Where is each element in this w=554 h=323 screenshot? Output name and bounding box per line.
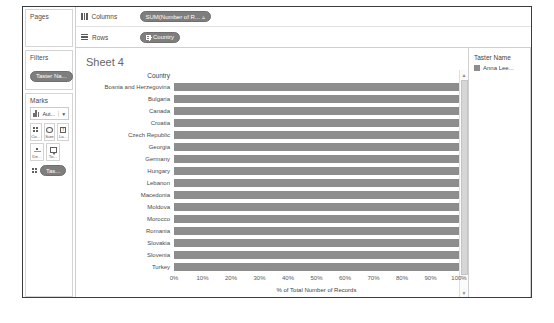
bar-mark[interactable] <box>174 215 459 224</box>
rows-shelf-label: Rows <box>92 34 128 41</box>
tooltip-icon <box>50 145 57 154</box>
mark-type-selector[interactable]: Aut... ▼ <box>30 107 69 120</box>
category-label: Slovenia <box>76 249 174 261</box>
columns-pill-sum-number-of-records[interactable]: SUM(Number of R... ▵ <box>140 11 211 22</box>
pages-card[interactable]: Pages <box>25 9 73 47</box>
shelves: Columns SUM(Number of R... ▵ Rows Countr… <box>76 7 531 48</box>
category-label: Slovakia <box>76 237 174 249</box>
bar-mark[interactable] <box>174 239 459 248</box>
bar-mark[interactable] <box>174 167 459 176</box>
marks-button-row-2: De... To... <box>30 143 69 161</box>
category-label: Turkey <box>76 261 174 273</box>
bar-row <box>174 129 459 141</box>
legend-item-label: Anna Lee... <box>483 65 514 71</box>
x-tick-label: 90% <box>424 275 436 281</box>
rows-pill-label: Country <box>153 34 174 40</box>
bar-row <box>174 213 459 225</box>
row-header-title: Country <box>76 70 174 81</box>
bar-mark[interactable] <box>174 119 459 128</box>
marks-detail-button[interactable]: De... <box>30 143 44 161</box>
bar-row <box>174 93 459 105</box>
bar-mark[interactable] <box>174 251 459 260</box>
viz-wrapper: Columns SUM(Number of R... ▵ Rows Countr… <box>76 7 531 297</box>
marks-tooltip-button[interactable]: To... <box>46 143 60 161</box>
mark-type-label: Aut... <box>42 111 55 117</box>
legend-swatch <box>474 65 480 71</box>
x-tick-label: 40% <box>282 275 294 281</box>
page-title: Sheet 4 <box>76 48 468 70</box>
marks-size-button[interactable]: Size <box>44 123 56 141</box>
marks-field-pill-label: Tas... <box>46 168 60 174</box>
bar-mark[interactable] <box>174 263 459 272</box>
category-label: Romania <box>76 225 174 237</box>
bar-mark[interactable] <box>174 179 459 188</box>
columns-shelf-label: Columns <box>92 13 128 20</box>
size-icon <box>46 125 53 134</box>
left-rail: Pages Filters Taster Na... Marks Aut... … <box>23 7 76 297</box>
marks-field-pill-taster[interactable]: Tas... <box>40 165 66 176</box>
chevron-down-icon[interactable]: ▼ <box>58 111 66 117</box>
category-label: Lebanon <box>76 177 174 189</box>
bar-mark[interactable] <box>174 191 459 200</box>
scrollbar-track[interactable] <box>460 79 469 288</box>
marks-color-label: Co... <box>31 134 40 140</box>
bar-row <box>174 141 459 153</box>
x-axis: 0%10%20%30%40%50%60%70%80%90%100% <box>76 273 459 286</box>
marks-label-label: La... <box>59 134 68 140</box>
x-tick-label: 80% <box>396 275 408 281</box>
category-label: Bosnia and Herzegovina <box>76 81 174 93</box>
bar-mark[interactable] <box>174 107 459 116</box>
category-label: Canada <box>76 105 174 117</box>
legend-item[interactable]: Anna Lee... <box>474 65 526 71</box>
marks-size-label: Size <box>45 134 54 140</box>
bar-mark[interactable] <box>174 131 459 140</box>
color-icon <box>33 125 38 134</box>
x-tick-label: 100% <box>451 275 466 281</box>
rows-pill-country[interactable]: Country <box>140 32 180 43</box>
marks-detail-label: De... <box>32 154 41 160</box>
bar-mark[interactable] <box>174 155 459 164</box>
x-tick-label: 50% <box>310 275 322 281</box>
filters-card[interactable]: Filters Taster Na... <box>25 50 73 90</box>
scroll-up-icon[interactable]: ▲ <box>460 70 469 79</box>
bar-row <box>174 261 459 273</box>
marks-color-button[interactable]: Co... <box>30 123 42 141</box>
viz-main: Sheet 4 Country Bosnia and HerzegovinaBu… <box>76 48 468 297</box>
x-tick-label: 0% <box>170 275 179 281</box>
bar-row <box>174 153 459 165</box>
color-icon <box>32 168 37 173</box>
filters-card-title: Filters <box>30 54 69 61</box>
tableau-worksheet: Pages Filters Taster Na... Marks Aut... … <box>0 0 554 323</box>
category-label: Hungary <box>76 165 174 177</box>
category-label: Macedonia <box>76 189 174 201</box>
plot-row: Bosnia and HerzegovinaBulgariaCanadaCroa… <box>76 81 459 273</box>
columns-pill-suffix-icon: ▵ <box>202 13 205 20</box>
bar-mark[interactable] <box>174 83 459 92</box>
detail-icon <box>34 145 41 154</box>
bar-mark[interactable] <box>174 227 459 236</box>
rows-shelf[interactable]: Rows Country <box>76 27 531 47</box>
filter-pill-label: Taster Na... <box>36 73 67 79</box>
columns-pill-label: SUM(Number of R... <box>146 14 200 20</box>
bar-mark[interactable] <box>174 143 459 152</box>
filter-pill-taster-name[interactable]: Taster Na... <box>30 71 73 82</box>
bar-chart-icon <box>33 110 39 117</box>
marks-label-button[interactable]: T La... <box>57 123 69 141</box>
pages-card-title: Pages <box>30 13 69 20</box>
category-label: Moldova <box>76 201 174 213</box>
scroll-down-icon[interactable]: ▼ <box>460 288 469 297</box>
bar-mark[interactable] <box>174 203 459 212</box>
x-tick-label: 30% <box>253 275 265 281</box>
vertical-scrollbar[interactable]: ▲ ▼ <box>459 70 468 297</box>
x-tick-label: 70% <box>367 275 379 281</box>
marks-card[interactable]: Marks Aut... ▼ Co... Size <box>25 93 73 297</box>
columns-shelf[interactable]: Columns SUM(Number of R... ▵ <box>76 7 531 27</box>
bar-mark[interactable] <box>174 95 459 104</box>
viz-pane: Sheet 4 Country Bosnia and HerzegovinaBu… <box>76 48 531 297</box>
category-label: Bulgaria <box>76 93 174 105</box>
category-label: Georgia <box>76 141 174 153</box>
x-tick-label: 60% <box>339 275 351 281</box>
scrollbar-thumb[interactable] <box>461 80 468 275</box>
legend-title: Taster Name <box>474 54 526 61</box>
bars-container <box>174 81 459 273</box>
